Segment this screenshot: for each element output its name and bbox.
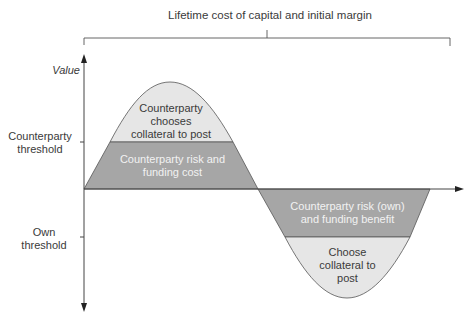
upper-dark-region-label: Counterparty risk and funding cost: [105, 153, 240, 179]
counterparty-threshold-line2: threshold: [4, 143, 76, 156]
counterparty-threshold-line1: Counterparty: [4, 130, 76, 143]
diagram-title: Lifetime cost of capital and initial mar…: [150, 9, 390, 22]
lower-light-line1: Choose: [305, 246, 390, 259]
counterparty-threshold-label: Counterparty threshold: [4, 130, 76, 156]
own-threshold-label: Own threshold: [14, 226, 74, 252]
upper-dark-line1: Counterparty risk and: [105, 153, 240, 166]
upper-light-line1: Counterparty: [115, 102, 227, 115]
own-threshold-line2: threshold: [14, 239, 74, 252]
upper-dark-line2: funding cost: [105, 166, 240, 179]
y-axis-label: Value: [40, 64, 80, 77]
upper-light-region-label: Counterparty chooses collateral to post: [115, 102, 227, 141]
lifetime-bracket: [84, 30, 450, 46]
lower-dark-line2: and funding benefit: [280, 213, 415, 226]
lower-light-line3: post: [305, 272, 390, 285]
own-threshold-line1: Own: [14, 226, 74, 239]
upper-light-line3: collateral to post: [115, 128, 227, 141]
lower-dark-region-label: Counterparty risk (own) and funding bene…: [280, 200, 415, 226]
lower-light-line2: collateral to: [305, 259, 390, 272]
upper-light-line2: chooses: [115, 115, 227, 128]
lower-light-region-label: Choose collateral to post: [305, 246, 390, 285]
lower-dark-line1: Counterparty risk (own): [280, 200, 415, 213]
